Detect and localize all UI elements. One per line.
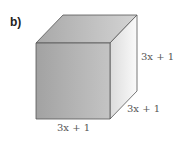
width-label: 3x + 1 — [57, 122, 90, 133]
depth-label: 3x + 1 — [127, 103, 160, 114]
height-label: 3x + 1 — [141, 51, 174, 62]
cube-diagram — [0, 0, 181, 145]
part-label: b) — [10, 15, 21, 29]
cube-front-face — [36, 43, 110, 119]
